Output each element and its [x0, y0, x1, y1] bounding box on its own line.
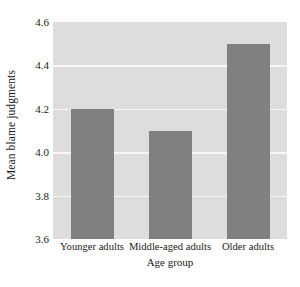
- x-axis-tick-labels: Younger adultsMiddle-aged adultsOlder ad…: [53, 241, 287, 257]
- y-axis-title: Mean blame judgments: [0, 0, 22, 250]
- y-axis-title-text: Mean blame judgments: [5, 70, 17, 180]
- bar-chart-figure: Mean blame judgments 4.64.44.24.03.83.6 …: [0, 0, 300, 287]
- x-axis-tick-label: Older adults: [222, 241, 274, 252]
- y-axis-tick-label: 4.6: [35, 16, 49, 28]
- y-axis-tick-label: 3.8: [35, 190, 49, 202]
- plot-area: [53, 22, 287, 239]
- y-axis-tick-labels: 4.64.44.24.03.83.6: [20, 0, 53, 287]
- y-axis-tick-label: 4.4: [35, 59, 49, 71]
- y-axis-tick-label: 4.0: [35, 146, 49, 158]
- bar: [71, 109, 114, 239]
- x-axis-tick-label: Younger adults: [60, 241, 124, 252]
- x-axis-title: Age group: [53, 256, 287, 268]
- bar: [227, 44, 270, 239]
- bar: [149, 131, 192, 240]
- y-axis-tick-label: 4.2: [35, 103, 49, 115]
- x-axis-tick-label: Middle-aged adults: [129, 241, 211, 252]
- y-axis-tick-label: 3.6: [35, 233, 49, 245]
